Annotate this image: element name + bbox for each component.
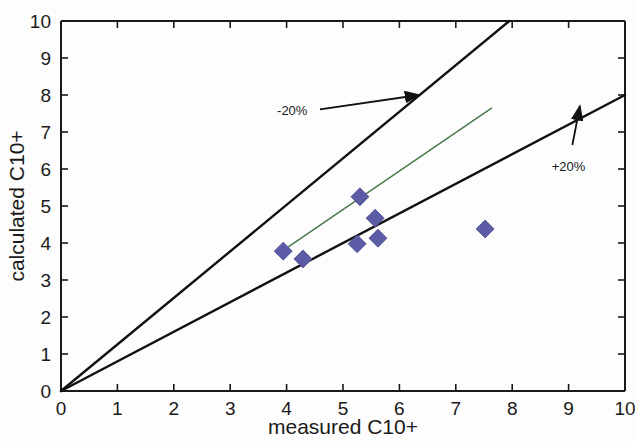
x-tick-label: 3 bbox=[225, 398, 236, 419]
data-point-marker bbox=[369, 229, 387, 247]
annotation-label: -20% bbox=[277, 103, 308, 118]
annotation-group: -20%+20% bbox=[277, 95, 586, 174]
data-point-marker bbox=[294, 250, 312, 268]
trend-line bbox=[282, 108, 492, 251]
x-axis-title: measured C10+ bbox=[268, 415, 418, 438]
y-tick-label: 6 bbox=[40, 159, 51, 180]
deviation-line bbox=[61, 21, 509, 391]
x-tick-label: 8 bbox=[507, 398, 518, 419]
annotation-label: +20% bbox=[552, 159, 586, 174]
x-tick-label: 10 bbox=[614, 398, 635, 419]
data-point-marker bbox=[366, 209, 384, 227]
y-tick-label: 10 bbox=[30, 11, 51, 32]
plot-canvas: -20%+20% 012345678910 012345678910 measu… bbox=[0, 0, 635, 441]
y-tick-label: 0 bbox=[40, 381, 51, 402]
axes-frame bbox=[61, 21, 625, 391]
y-axis-ticks bbox=[61, 21, 625, 391]
data-point-marker bbox=[348, 235, 366, 253]
data-point-marker bbox=[274, 242, 292, 260]
y-axis-title: calculated C10+ bbox=[5, 130, 28, 281]
y-tick-label: 8 bbox=[40, 85, 51, 106]
x-tick-label: 9 bbox=[563, 398, 574, 419]
scatter-plot-figure: -20%+20% 012345678910 012345678910 measu… bbox=[0, 0, 635, 441]
x-axis-ticks bbox=[61, 21, 625, 391]
y-tick-label: 2 bbox=[40, 307, 51, 328]
data-point-group bbox=[274, 188, 494, 268]
annotation-arrow bbox=[572, 106, 580, 145]
y-tick-label: 1 bbox=[40, 344, 51, 365]
y-tick-label: 3 bbox=[40, 270, 51, 291]
y-tick-label: 7 bbox=[40, 122, 51, 143]
y-tick-label: 9 bbox=[40, 48, 51, 69]
deviation-line bbox=[61, 95, 625, 391]
y-tick-label: 5 bbox=[40, 196, 51, 217]
data-point-marker bbox=[476, 220, 494, 238]
x-tick-label: 7 bbox=[451, 398, 462, 419]
x-tick-label: 1 bbox=[112, 398, 123, 419]
x-tick-label: 2 bbox=[169, 398, 180, 419]
x-tick-label: 0 bbox=[56, 398, 67, 419]
deviation-reference-lines bbox=[61, 21, 625, 391]
y-tick-label: 4 bbox=[40, 233, 51, 254]
y-tick-labels: 012345678910 bbox=[30, 11, 52, 402]
trend-line-group bbox=[282, 108, 492, 251]
